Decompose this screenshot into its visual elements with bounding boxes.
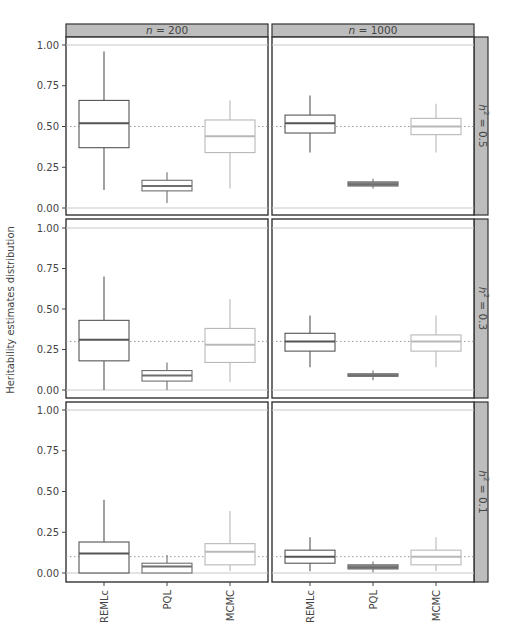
panel-row0-col1	[272, 37, 474, 215]
y-tick-label: 1.00	[37, 405, 59, 416]
row-strip-2: h2 = 0.1	[474, 402, 490, 582]
row-strip-label: h2 = 0.1	[477, 470, 490, 513]
y-tick-label: 0.00	[37, 385, 59, 396]
y-tick-label: 0.25	[37, 162, 59, 173]
x-tick-label-remlc: REMLc	[99, 590, 110, 623]
column-strip-label: n = 1000	[349, 24, 398, 36]
y-tick-label: 0.50	[37, 121, 59, 132]
faceted-boxplot: n = 200n = 1000h2 = 0.5h2 = 0.3h2 = 0.10…	[0, 0, 509, 637]
column-strip-label: n = 200	[146, 24, 188, 36]
y-tick-label: 0.00	[37, 568, 59, 579]
y-axis-title: Heritability estimates distribution	[5, 226, 16, 394]
column-strip-0: n = 200	[66, 24, 268, 37]
column-strip-1: n = 1000	[272, 24, 474, 37]
iqr-box	[79, 542, 129, 573]
y-tick-label: 0.75	[37, 445, 59, 456]
y-tick-label: 0.25	[37, 344, 59, 355]
panel-row0-col0: 0.000.250.500.751.00	[37, 37, 268, 215]
y-tick-label: 0.00	[37, 203, 59, 214]
x-tick-label-mcmc: MCMC	[431, 590, 442, 621]
y-tick-label: 0.25	[37, 527, 59, 538]
row-strip-label: h2 = 0.5	[477, 104, 490, 147]
x-tick-label-pql: PQL	[368, 590, 379, 610]
panel-row2-col1: REMLcPQLMCMC	[272, 402, 474, 623]
y-tick-label: 0.50	[37, 304, 59, 315]
panel-row1-col0: 0.000.250.500.751.00	[37, 219, 268, 398]
chart-figure: Heritability estimates distribution n = …	[0, 0, 509, 637]
y-tick-label: 1.00	[37, 40, 59, 51]
y-tick-label: 1.00	[37, 223, 59, 234]
x-tick-label-remlc: REMLc	[305, 590, 316, 623]
panel-row1-col1	[272, 219, 474, 398]
iqr-box	[411, 335, 461, 351]
row-strip-label: h2 = 0.3	[477, 287, 490, 330]
y-tick-label: 0.50	[37, 486, 59, 497]
row-strip-0: h2 = 0.5	[474, 37, 490, 215]
panel-row2-col0: 0.000.250.500.751.00REMLcPQLMCMC	[37, 402, 268, 623]
iqr-box	[205, 544, 255, 565]
y-tick-label: 0.75	[37, 80, 59, 91]
x-tick-label-mcmc: MCMC	[225, 590, 236, 621]
x-tick-label-pql: PQL	[162, 590, 173, 610]
row-strip-1: h2 = 0.3	[474, 219, 490, 398]
iqr-box	[142, 563, 192, 573]
y-tick-label: 0.75	[37, 263, 59, 274]
